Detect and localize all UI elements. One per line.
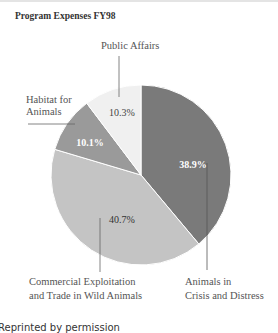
label-public-affairs: Public Affairs [101, 40, 159, 51]
pct-label-habitat: 10.1% [76, 137, 104, 148]
pct-label-commercial: 40.7% [109, 214, 135, 225]
pct-label-animals-crisis: 38.9% [179, 159, 207, 170]
label-animals-crisis-line1: Animals in [185, 276, 232, 287]
pie-slices [51, 85, 231, 265]
footer-credit: Reprinted by permission [0, 322, 120, 333]
label-habitat-line1: Habitat for [26, 94, 72, 105]
label-commercial-line2: and Trade in Wild Animals [29, 290, 142, 301]
label-habitat-line2: Animals [26, 106, 62, 117]
label-commercial-line1: Commercial Exploitation [29, 276, 136, 287]
pct-label-public-affairs: 10.3% [109, 107, 135, 118]
label-animals-crisis-line2: Crisis and Distress [185, 290, 264, 301]
